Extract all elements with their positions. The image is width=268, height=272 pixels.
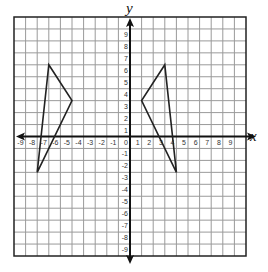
x-tick-label: 5 [182,139,186,146]
y-tick-label: -3 [122,174,128,181]
y-tick-label: -4 [122,186,128,193]
x-tick-label: 8 [217,139,221,146]
x-tick-label: -3 [87,139,93,146]
y-tick-label: -8 [122,234,128,241]
y-tick-label: 5 [124,79,128,86]
x-tick-label: 9 [228,139,232,146]
x-tick-label: -8 [29,139,35,146]
x-tick-label: -9 [17,139,23,146]
y-tick-label: 6 [124,67,128,74]
y-tick-label: -9 [122,246,128,253]
y-tick-label: -6 [122,210,128,217]
x-tick-label: -4 [75,139,81,146]
x-tick-label: 2 [147,139,151,146]
y-tick-label: 4 [124,91,128,98]
y-tick-label: 1 [124,127,128,134]
y-tick-label: 9 [124,31,128,38]
y-tick-label: -1 [122,150,128,157]
y-tick-label: -5 [122,198,128,205]
x-tick-label: -1 [110,139,116,146]
y-axis-label: y [124,0,133,16]
x-tick-label: -2 [99,139,105,146]
x-tick-label: -5 [64,139,70,146]
y-tick-label: 2 [124,115,128,122]
y-tick-label: 8 [124,43,128,50]
coordinate-plane: -9-8-7-6-5-4-3-2-10123456789987654321-1-… [0,0,268,272]
left-triangle [37,65,72,173]
y-tick-label: 7 [124,55,128,62]
x-tick-label: 0 [124,139,128,146]
y-tick-label: -2 [122,162,128,169]
y-tick-label: 3 [124,103,128,110]
x-tick-label: 6 [194,139,198,146]
x-axis-label: x [249,128,257,144]
x-tick-label: 7 [205,139,209,146]
x-tick-label: 1 [136,139,140,146]
right-triangle [142,65,177,173]
y-tick-label: -7 [122,222,128,229]
